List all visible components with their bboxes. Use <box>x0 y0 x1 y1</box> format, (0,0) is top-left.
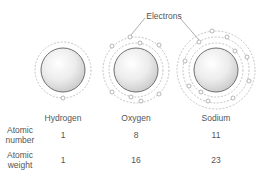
electron <box>139 99 143 103</box>
atomic-number-label: Atomic number <box>0 125 40 145</box>
atomic-weight-label: Atomic weight <box>0 150 40 170</box>
electron <box>210 29 214 33</box>
electron <box>231 96 235 100</box>
atomic-weight-hydrogen: 1 <box>48 155 78 165</box>
electrons-callout-lines <box>131 18 199 40</box>
electron <box>197 40 201 44</box>
atom-name-hydrogen: Hydrogen <box>38 113 88 123</box>
electron <box>225 35 229 39</box>
atomic-weight-sodium: 23 <box>201 155 231 165</box>
nucleus <box>194 48 238 92</box>
electron <box>128 35 132 39</box>
electron <box>110 44 114 48</box>
electron <box>110 90 114 94</box>
electron <box>61 96 65 100</box>
atomic-weight-oxygen: 16 <box>121 155 151 165</box>
atomic-number-sodium: 11 <box>201 130 231 140</box>
nucleus <box>41 48 85 92</box>
electron <box>233 49 237 53</box>
electron <box>138 41 142 45</box>
nucleus <box>114 48 158 92</box>
electrons-callout-label: Electrons <box>139 11 189 21</box>
oxygen-atom <box>103 35 169 103</box>
atom-name-oxygen: Oxygen <box>111 113 161 123</box>
electron <box>157 92 161 96</box>
atomic-number-hydrogen: 1 <box>48 130 78 140</box>
atomic-number-oxygen: 8 <box>121 130 151 140</box>
electron <box>199 90 203 94</box>
hydrogen-atom <box>35 42 91 100</box>
electron <box>206 99 210 103</box>
electron <box>183 59 187 63</box>
electron <box>187 84 191 88</box>
electron <box>245 55 249 59</box>
electron <box>129 95 133 99</box>
electron <box>247 79 251 83</box>
sodium-atom <box>177 29 255 109</box>
atom-name-sodium: Sodium <box>191 113 241 123</box>
atom-diagram <box>0 0 271 172</box>
electron <box>157 43 161 47</box>
